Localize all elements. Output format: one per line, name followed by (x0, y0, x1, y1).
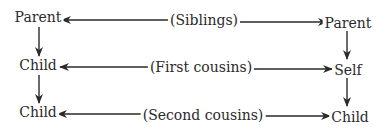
node-left-child-2: Child (17, 105, 59, 119)
node-right-child: Child (329, 110, 371, 124)
node-left-child-1: Child (17, 58, 59, 72)
node-right-self: Self (332, 63, 364, 77)
node-right-parent: Parent (323, 16, 374, 30)
node-left-parent: Parent (13, 10, 64, 24)
edge-label-siblings: (Siblings) (168, 13, 240, 27)
edge-label-first-cousins: (First cousins) (148, 60, 254, 74)
edge-label-second-cousins: (Second cousins) (141, 108, 266, 122)
